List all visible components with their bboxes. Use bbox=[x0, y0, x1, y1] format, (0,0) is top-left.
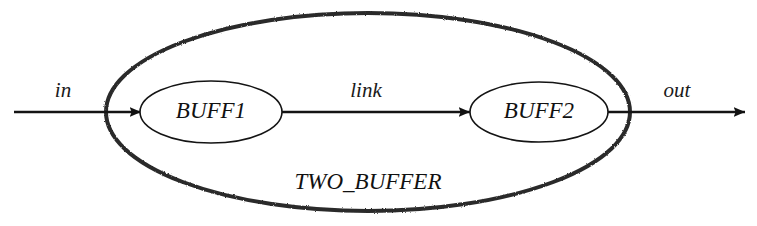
container-label: TWO_BUFFER bbox=[295, 169, 442, 194]
edge-in[interactable]: in bbox=[14, 78, 141, 112]
edge-link[interactable]: link bbox=[282, 78, 470, 112]
edge-link-label: link bbox=[350, 78, 382, 102]
edge-out-label: out bbox=[664, 78, 692, 102]
edge-in-label: in bbox=[55, 78, 71, 102]
node-buff2[interactable]: BUFF2 bbox=[470, 82, 608, 142]
node-buff1-label: BUFF1 bbox=[176, 98, 246, 123]
diagram-svg: TWO_BUFFER in link out BUFF1 BUFF2 bbox=[0, 0, 757, 226]
node-buff2-label: BUFF2 bbox=[504, 98, 574, 123]
node-buff1[interactable]: BUFF1 bbox=[140, 81, 282, 143]
diagram-canvas: TWO_BUFFER in link out BUFF1 BUFF2 bbox=[0, 0, 757, 226]
